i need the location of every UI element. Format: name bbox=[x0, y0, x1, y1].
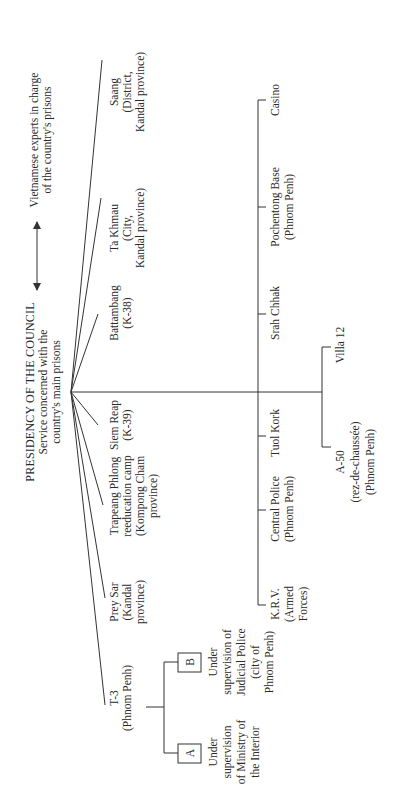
node-b-text-line: supervision of bbox=[221, 629, 234, 695]
node-t-3: T-3(Phnom Penh) bbox=[108, 665, 134, 731]
node-siem-reap: Siem Reap(K-39) bbox=[108, 400, 134, 450]
box-a-label: A bbox=[184, 748, 196, 757]
node-central-police-line: (Phnom Penh) bbox=[283, 476, 296, 542]
node-a-50-line: A-50 bbox=[334, 450, 346, 474]
root-subtitle: Service concerned with the bbox=[37, 330, 49, 455]
node-krv-line: K.R.V. bbox=[269, 588, 281, 620]
node-siem-reap-line: (K-39) bbox=[121, 409, 134, 440]
node-saang-line: Saang bbox=[108, 78, 121, 106]
node-central-police-line: Central Police bbox=[269, 476, 281, 541]
node-battambang-line: (K-38) bbox=[121, 297, 134, 328]
node-tuol-kork: Tuol Kork bbox=[269, 409, 281, 457]
node-ta-khmau-line: (City, bbox=[121, 215, 134, 241]
node-ta-khmau: Ta Khmau(City,Kandal province) bbox=[108, 188, 147, 268]
org-chart-svg: PRESIDENCY OF THE COUNCILService concern… bbox=[0, 0, 409, 789]
side-note-line: of the country's prisons bbox=[41, 86, 54, 194]
branch-line-t-3 bbox=[71, 392, 105, 705]
org-chart-diagram: PRESIDENCY OF THE COUNCILService concern… bbox=[0, 0, 409, 789]
node-srah-chhak-line: Srah Chhak bbox=[269, 286, 281, 340]
branch-line-siem-reap bbox=[71, 392, 98, 425]
node-villa-12: Villa 12 bbox=[334, 326, 346, 363]
node-pochentong-line: (Phnom Penh) bbox=[283, 174, 296, 240]
node-prey-sar-line: province) bbox=[134, 580, 147, 624]
node-a-50-line: (Phnom Penh) bbox=[364, 429, 377, 495]
node-trapeang-phlong-line: Trapeang Phlong bbox=[108, 457, 121, 536]
node-t-3-line: T-3 bbox=[108, 690, 120, 706]
node-ta-khmau-line: Kandal province) bbox=[134, 188, 147, 268]
node-b-text-line: Phnom Penh) bbox=[263, 631, 276, 693]
node-krv-line: Forces) bbox=[297, 587, 310, 622]
side-note: Vietnamese experts in chargeof the count… bbox=[28, 73, 54, 208]
node-b-text: Undersupervision ofJudicial Police(city … bbox=[207, 628, 276, 695]
node-a-text-line: the Interior bbox=[249, 726, 261, 778]
node-a-text: Undersupervisionof Ministry ofthe Interi… bbox=[207, 720, 261, 785]
root-node: PRESIDENCY OF THE COUNCILService concern… bbox=[23, 302, 63, 481]
node-tuol-kork-line: Tuol Kork bbox=[269, 409, 281, 457]
node-krv-line: (Armed bbox=[283, 586, 296, 622]
root-title: PRESIDENCY OF THE COUNCIL bbox=[23, 302, 37, 481]
node-saang: Saang(District,Kandal province) bbox=[108, 52, 147, 132]
box-b-label: B bbox=[184, 658, 196, 666]
node-prey-sar: Prey Sar(Kandalprovince) bbox=[108, 580, 147, 624]
node-srah-chhak: Srah Chhak bbox=[269, 286, 281, 340]
node-b-text-line: Under bbox=[207, 647, 219, 676]
node-pochentong-line: Pochentong Base bbox=[269, 167, 282, 247]
node-a-50-line: (rez-de-chaussée) bbox=[349, 421, 362, 502]
node-krv: K.R.V.(ArmedForces) bbox=[269, 586, 310, 622]
node-pochentong: Pochentong Base(Phnom Penh) bbox=[269, 167, 296, 247]
node-prey-sar-line: (Kandal bbox=[121, 583, 134, 620]
node-trapeang-phlong-line: province) bbox=[147, 474, 160, 518]
node-a-text-line: supervision bbox=[221, 725, 234, 778]
arrow-head-up-icon bbox=[33, 221, 41, 229]
node-villa-12-line: Villa 12 bbox=[334, 326, 346, 363]
root-subtitle: country's main prisons bbox=[50, 340, 63, 444]
node-trapeang-phlong-line: (Kompong Cham bbox=[134, 456, 147, 536]
node-central-police: Central Police(Phnom Penh) bbox=[269, 476, 296, 542]
node-prey-sar-line: Prey Sar bbox=[108, 582, 121, 621]
node-battambang-line: Battambang bbox=[108, 285, 121, 341]
node-battambang: Battambang(K-38) bbox=[108, 285, 134, 341]
node-a-50: A-50(rez-de-chaussée)(Phnom Penh) bbox=[334, 421, 377, 502]
node-trapeang-phlong-line: reeducation camp bbox=[121, 455, 134, 537]
node-saang-line: (District, bbox=[121, 71, 134, 112]
node-casino-line: Casino bbox=[269, 84, 281, 116]
node-siem-reap-line: Siem Reap bbox=[108, 400, 121, 450]
node-casino: Casino bbox=[269, 84, 281, 116]
node-a-text-line: Under bbox=[207, 737, 219, 766]
branch-line-saang bbox=[71, 60, 102, 392]
side-note-line: Vietnamese experts in charge bbox=[28, 73, 41, 208]
arrow-head-down-icon bbox=[33, 283, 41, 291]
node-b-text-line: (city of bbox=[249, 645, 262, 679]
node-b-text-line: Judicial Police bbox=[235, 628, 247, 695]
node-ta-khmau-line: Ta Khmau bbox=[108, 204, 120, 252]
node-trapeang-phlong: Trapeang Phlongreeducation camp(Kompong … bbox=[108, 455, 160, 537]
node-t-3-line: (Phnom Penh) bbox=[121, 665, 134, 731]
node-saang-line: Kandal province) bbox=[134, 52, 147, 132]
node-a-text-line: of Ministry of bbox=[235, 720, 248, 785]
